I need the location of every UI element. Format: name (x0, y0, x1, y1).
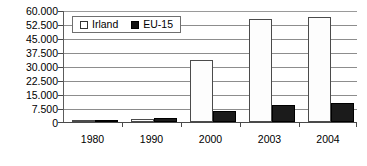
y-axis-tick-label: 45.000 (26, 34, 58, 44)
y-axis-tick-label: 30.000 (26, 62, 58, 72)
bar-chart: 60.000 52.500 45.000 37.500 30.000 22.50… (0, 0, 367, 166)
legend-entry-irland: Irland (80, 19, 118, 30)
y-axis-tick-label: 7.500 (32, 104, 58, 114)
y-axis-line (63, 11, 64, 123)
x-axis-label-2000: 2000 (181, 133, 240, 145)
x-axis-tick-mark (356, 122, 357, 127)
y-axis-labels: 60.000 52.500 45.000 37.500 30.000 22.50… (0, 0, 58, 166)
gridline (63, 11, 357, 12)
y-axis-tick-label: 52.500 (26, 20, 58, 30)
x-axis-line (63, 122, 357, 123)
x-axis-label-2003: 2003 (240, 133, 299, 145)
x-axis-label-2004: 2004 (299, 133, 357, 145)
x-axis-label-1990: 1990 (122, 133, 181, 145)
x-axis-tick-mark (240, 122, 241, 127)
bar-eu15-2004 (331, 103, 354, 122)
bar-eu15-2000 (213, 111, 236, 122)
bar-irland-2004 (308, 17, 331, 122)
legend-swatch-icon-irland (80, 21, 88, 29)
y-axis-tick-label: 22.500 (26, 76, 58, 86)
legend-label-eu15: EU-15 (143, 19, 173, 30)
legend-swatch-icon-eu15 (131, 21, 139, 29)
y-axis-tick-label: 60.000 (26, 6, 58, 16)
y-axis-tick-label: 37.500 (26, 48, 58, 58)
x-axis-tick-mark (299, 122, 300, 127)
bar-irland-2003 (249, 19, 272, 122)
legend-label-irland: Irland (92, 19, 118, 30)
bar-irland-2000 (190, 60, 213, 122)
bar-eu15-2003 (272, 105, 295, 122)
y-axis-tick-label: 15.000 (26, 90, 58, 100)
legend-entry-eu15: EU-15 (131, 19, 173, 30)
legend: Irland EU-15 (72, 16, 181, 33)
x-axis-label-1980: 1980 (63, 133, 122, 145)
x-axis-tick-mark (181, 122, 182, 127)
y-axis-tick-label: 0 (52, 118, 58, 128)
x-axis-tick-mark (122, 122, 123, 127)
